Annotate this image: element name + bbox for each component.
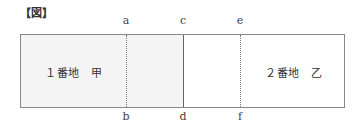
point-label-f: f: [238, 110, 242, 123]
parcel-1-label: １番地 甲: [45, 64, 103, 80]
point-label-c: c: [180, 14, 186, 27]
figure-title: 【図】: [20, 4, 53, 20]
boundary-line-c-d: [183, 35, 184, 107]
point-label-d: d: [179, 110, 186, 123]
boundary-line-e-f: [240, 35, 241, 107]
parcel-2-label: ２番地 乙: [265, 64, 323, 80]
point-label-b: b: [122, 110, 129, 123]
point-label-e: e: [237, 14, 244, 27]
point-label-a: a: [123, 14, 130, 27]
land-diagram-box: １番地 甲 ２番地 乙: [20, 34, 345, 108]
boundary-line-a-b: [126, 35, 127, 107]
